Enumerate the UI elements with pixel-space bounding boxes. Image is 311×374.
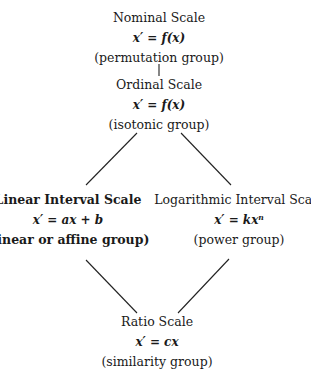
node-group: (linear or affine group) bbox=[0, 232, 149, 248]
node-formula: x′ = cx bbox=[101, 334, 212, 350]
edge-linear-ratio bbox=[86, 260, 137, 313]
node-title: Ratio Scale bbox=[101, 314, 212, 330]
node-title: Logarithmic Interval Scale bbox=[154, 192, 311, 208]
node-group: (similarity group) bbox=[101, 354, 212, 370]
node-formula: x′ = f(x) bbox=[109, 97, 210, 113]
node-title: Ordinal Scale bbox=[109, 77, 210, 93]
node-nominal-scale: Nominal Scale x′ = f(x) (permutation gro… bbox=[94, 10, 224, 66]
node-formula: x′ = ax + b bbox=[0, 212, 149, 228]
node-title: Nominal Scale bbox=[94, 10, 224, 26]
node-linear-interval-scale: Linear Interval Scale x′ = ax + b (linea… bbox=[0, 192, 149, 248]
node-group: (isotonic group) bbox=[109, 117, 210, 133]
edge-ordinal-log bbox=[181, 133, 231, 185]
edge-log-ratio bbox=[178, 259, 229, 313]
node-formula: x′ = f(x) bbox=[94, 30, 224, 46]
node-ordinal-scale: Ordinal Scale x′ = f(x) (isotonic group) bbox=[109, 77, 210, 133]
node-group: (power group) bbox=[154, 232, 311, 248]
node-formula: x′ = kxⁿ bbox=[154, 212, 311, 228]
node-ratio-scale: Ratio Scale x′ = cx (similarity group) bbox=[101, 314, 212, 370]
edge-ordinal-linear bbox=[86, 133, 137, 185]
node-title: Linear Interval Scale bbox=[0, 192, 149, 208]
node-group: (permutation group) bbox=[94, 50, 224, 66]
node-logarithmic-interval-scale: Logarithmic Interval Scale x′ = kxⁿ (pow… bbox=[154, 192, 311, 248]
